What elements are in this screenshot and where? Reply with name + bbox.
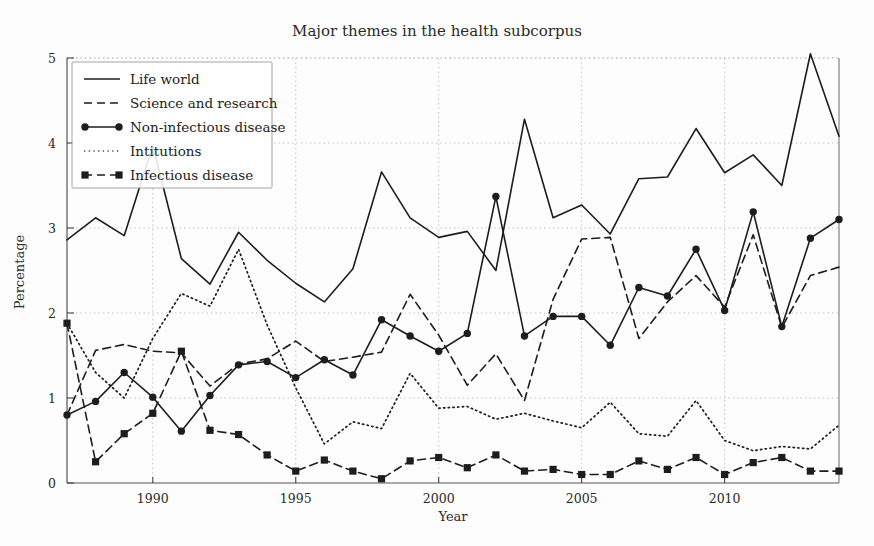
data-point-marker: [750, 459, 757, 466]
data-point-marker: [406, 332, 413, 339]
data-point-marker: [692, 454, 699, 461]
data-point-marker: [92, 398, 99, 405]
data-point-marker: [807, 468, 814, 475]
series-path: [67, 235, 839, 415]
y-tick-label: 3: [48, 221, 56, 236]
data-point-marker: [664, 466, 671, 473]
y-axis-label: Percentage: [12, 234, 27, 309]
line-chart: 01234519901995200020052010 Life worldSci…: [0, 0, 874, 546]
chart-canvas: 01234519901995200020052010 Life worldSci…: [0, 0, 874, 546]
data-point-marker: [235, 361, 242, 368]
legend-marker: [115, 171, 122, 178]
y-tick-label: 1: [48, 391, 56, 406]
data-point-marker: [435, 348, 442, 355]
data-point-marker: [778, 454, 785, 461]
data-point-marker: [521, 468, 528, 475]
data-point-marker: [206, 427, 213, 434]
legend: Life worldScience and researchNon-infect…: [72, 62, 285, 188]
data-point-marker: [835, 216, 842, 223]
data-point-marker: [407, 457, 414, 464]
data-point-marker: [635, 457, 642, 464]
data-point-marker: [63, 320, 70, 327]
data-point-marker: [149, 410, 156, 417]
data-point-marker: [692, 246, 699, 253]
series-infectious-disease: [63, 320, 842, 483]
y-tick-label: 0: [48, 476, 56, 491]
data-point-marker: [435, 454, 442, 461]
data-point-marker: [378, 316, 385, 323]
legend-label: Science and research: [130, 95, 278, 111]
legend-label: Intitutions: [130, 143, 201, 159]
data-point-marker: [492, 193, 499, 200]
legend-label: Non-infectious disease: [130, 119, 285, 135]
y-tick-label: 2: [48, 306, 56, 321]
data-point-marker: [178, 348, 185, 355]
x-tick-label: 2010: [709, 491, 741, 506]
data-point-marker: [835, 468, 842, 475]
legend-marker: [115, 123, 122, 130]
x-tick-label: 1995: [280, 491, 312, 506]
data-point-marker: [635, 284, 642, 291]
x-tick-label: 2000: [423, 491, 455, 506]
data-point-marker: [464, 464, 471, 471]
data-point-marker: [549, 466, 556, 473]
data-point-marker: [92, 458, 99, 465]
x-tick-label: 2005: [566, 491, 598, 506]
x-tick-label: 1990: [137, 491, 169, 506]
y-tick-label: 4: [48, 136, 56, 151]
legend-label: Life world: [130, 71, 200, 87]
data-point-marker: [492, 451, 499, 458]
data-point-marker: [178, 427, 185, 434]
data-point-marker: [607, 342, 614, 349]
legend-marker: [81, 171, 88, 178]
data-point-marker: [206, 392, 213, 399]
data-point-marker: [263, 358, 270, 365]
data-point-marker: [349, 468, 356, 475]
data-point-marker: [464, 330, 471, 337]
data-point-marker: [721, 471, 728, 478]
data-point-marker: [664, 292, 671, 299]
data-point-marker: [120, 369, 127, 376]
data-point-marker: [750, 208, 757, 215]
x-axis-label: Year: [437, 509, 468, 524]
series-science-and-research: [67, 235, 839, 415]
data-point-marker: [63, 411, 70, 418]
data-point-marker: [521, 332, 528, 339]
data-point-marker: [349, 371, 356, 378]
data-point-marker: [292, 468, 299, 475]
data-point-marker: [235, 431, 242, 438]
data-point-marker: [721, 307, 728, 314]
data-point-marker: [578, 471, 585, 478]
series-path: [67, 323, 839, 479]
data-point-marker: [321, 356, 328, 363]
data-point-marker: [778, 323, 785, 330]
y-tick-label: 5: [48, 51, 56, 66]
data-point-marker: [607, 471, 614, 478]
chart-title: Major themes in the health subcorpus: [292, 22, 582, 40]
data-point-marker: [578, 313, 585, 320]
legend-label: Infectious disease: [130, 167, 253, 183]
data-point-marker: [264, 451, 271, 458]
data-point-marker: [549, 313, 556, 320]
series-non-infectious-disease: [63, 193, 842, 435]
legend-marker: [81, 123, 88, 130]
data-point-marker: [121, 430, 128, 437]
data-point-marker: [321, 456, 328, 463]
data-point-marker: [149, 393, 156, 400]
data-point-marker: [807, 235, 814, 242]
data-point-marker: [378, 475, 385, 482]
